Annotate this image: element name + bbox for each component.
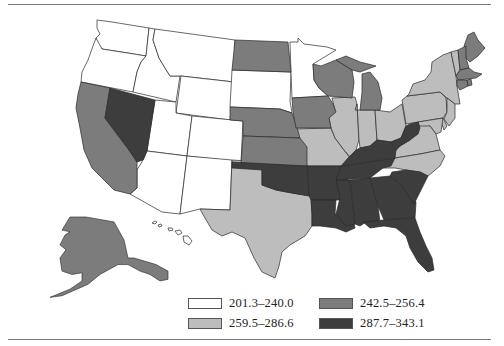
- legend-swatch-dark: [319, 318, 353, 329]
- legend: 201.3–240.0 242.5–256.4 259.5–286.6 287.…: [188, 293, 488, 333]
- state-FL: [363, 218, 434, 272]
- legend-swatch-light-gray: [188, 318, 222, 329]
- state-MA: [456, 68, 482, 80]
- legend-label: 259.5–286.6: [229, 316, 294, 331]
- state-CO: [187, 116, 243, 162]
- state-AK: [50, 217, 168, 297]
- legend-item-242-256: 242.5–256.4: [319, 295, 425, 311]
- state-SD: [230, 70, 292, 113]
- legend-item-287-343: 287.7–343.1: [319, 315, 425, 331]
- legend-label: 201.3–240.0: [229, 296, 294, 311]
- legend-item-259-286: 259.5–286.6: [188, 315, 294, 331]
- legend-label: 242.5–256.4: [360, 296, 425, 311]
- state-KS: [241, 136, 307, 166]
- state-NM: [180, 156, 232, 214]
- state-RI: [467, 79, 472, 86]
- state-ND: [232, 40, 291, 72]
- legend-label: 287.7–343.1: [360, 316, 425, 331]
- state-CT: [457, 80, 468, 90]
- bottom-rule: [8, 339, 491, 340]
- state-IA: [292, 96, 336, 128]
- state-HI: [152, 221, 192, 245]
- legend-item-201-240: 201.3–240.0: [188, 295, 294, 311]
- state-WY: [176, 76, 234, 120]
- legend-swatch-white: [188, 298, 222, 309]
- state-ME: [464, 32, 485, 62]
- legend-swatch-medium-gray: [319, 298, 353, 309]
